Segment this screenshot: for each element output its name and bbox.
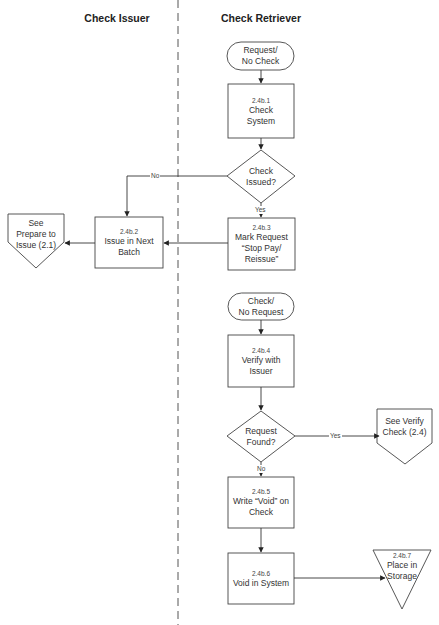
- edge-label-no: No: [150, 172, 160, 180]
- connector-label: Prepare to: [16, 229, 56, 240]
- process-2-4b-2-label: 2.4b.2 Issue in Next Batch: [95, 217, 163, 268]
- step-label: Reissue”: [245, 254, 279, 265]
- terminator-check-no-request-label: Check/ No Request: [228, 293, 294, 320]
- step-label: Check: [249, 105, 273, 116]
- decision-label: Request: [245, 426, 277, 437]
- process-2-4b-3-label: 2.4b.3 Mark Request “Stop Pay/ Reissue”: [228, 218, 295, 270]
- step-label: Write “Void” on: [233, 496, 289, 507]
- connector-label: Issue (2.1): [16, 240, 56, 251]
- process-2-4b-6-label: 2.4b.6 Void in System: [228, 553, 294, 604]
- step-label: Place in: [387, 560, 417, 571]
- process-2-4b-5-label: 2.4b.5 Write “Void” on Check: [228, 477, 294, 528]
- terminator-line: Request/: [243, 45, 277, 56]
- process-2-4b-4-label: 2.4b.4 Verify with Issuer: [228, 335, 294, 387]
- step-id: 2.4b.6: [252, 569, 270, 578]
- terminator-request-no-check-label: Request/ No Check: [227, 42, 294, 70]
- decision-check-issued-label: Check Issued?: [227, 150, 295, 203]
- terminator-line: No Request: [239, 307, 284, 318]
- step-id: 2.4b.2: [120, 227, 138, 236]
- lane-title-check-retriever: Check Retriever: [206, 12, 316, 24]
- edge-label-yes: Yes: [329, 432, 342, 440]
- decision-request-found-label: Request Found?: [227, 411, 295, 462]
- step-label: Issue in Next: [104, 236, 153, 247]
- step-id: 2.4b.1: [252, 96, 270, 105]
- step-id: 2.4b.4: [252, 346, 270, 355]
- decision-label: Found?: [247, 437, 276, 448]
- off-page-connector-verify-label: See Verify Check (2.4): [377, 413, 432, 441]
- process-2-4b-1-label: 2.4b.1 Check System: [228, 84, 294, 138]
- edge-label-yes: Yes: [254, 206, 267, 214]
- step-label: Check: [249, 507, 273, 518]
- lane-title-check-issuer: Check Issuer: [67, 12, 167, 24]
- step-label: Issuer: [249, 366, 272, 377]
- terminator-line: Check/: [248, 296, 274, 307]
- storage-2-4b-7-label: 2.4b.7 Place in Storage: [378, 551, 426, 581]
- step-id: 2.4b.7: [393, 551, 411, 560]
- decision-label: Check: [249, 166, 273, 177]
- connector-label: See Verify: [385, 416, 424, 427]
- step-label: System: [247, 116, 275, 127]
- connector-label: See: [28, 218, 43, 229]
- edge-d1-n2-no: [127, 176, 227, 216]
- step-id: 2.4b.3: [252, 223, 270, 232]
- connector-label: Check (2.4): [383, 427, 427, 438]
- step-label: Storage: [387, 571, 417, 582]
- decision-label: Issued?: [246, 177, 276, 188]
- step-label: Mark Request: [235, 232, 288, 243]
- step-label: Verify with: [242, 355, 281, 366]
- flowchart-canvas: [0, 0, 439, 625]
- edge-label-no: No: [256, 465, 266, 473]
- step-id: 2.4b.5: [252, 487, 270, 496]
- step-label: “Stop Pay/: [242, 243, 282, 254]
- off-page-connector-prepare-label: See Prepare to Issue (2.1): [8, 216, 64, 252]
- terminator-line: No Check: [242, 56, 279, 67]
- step-label: Void in System: [233, 578, 289, 589]
- step-label: Batch: [118, 247, 140, 258]
